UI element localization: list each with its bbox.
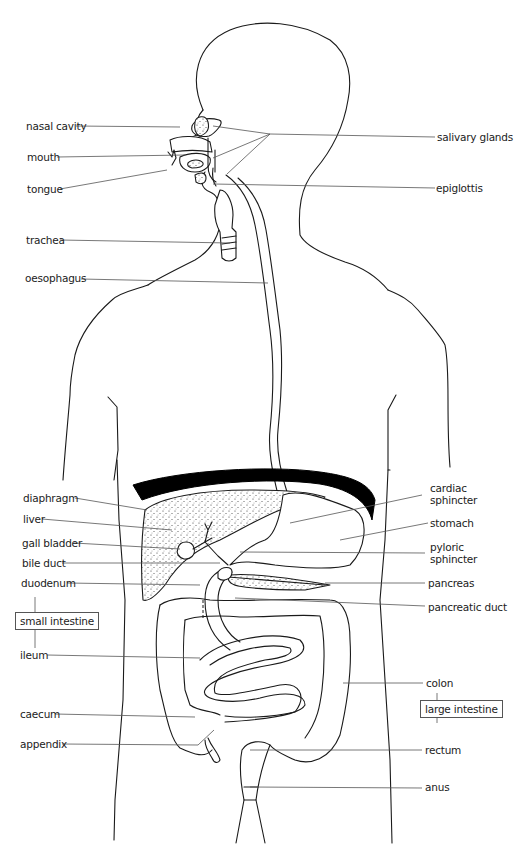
group-box-large-intestine: large intestine: [420, 700, 503, 718]
label-pancreatic-duct: pancreatic duct: [428, 601, 507, 613]
label-diaphragm: diaphragm: [23, 492, 78, 504]
label-rectum: rectum: [425, 744, 461, 756]
rectum-shape: [240, 742, 270, 800]
group-box-small-intestine: small intestine: [15, 612, 99, 630]
appendix-shape: [205, 738, 220, 762]
label-cardiac-sphincter-line2: sphincter: [430, 494, 477, 506]
label-tongue: tongue: [27, 183, 63, 195]
label-appendix: appendix: [20, 738, 67, 750]
label-bile-duct: bile duct: [22, 557, 66, 569]
pancreas-shape: [228, 575, 330, 590]
label-liver: liver: [23, 513, 45, 525]
label-oesophagus: oesophagus: [25, 272, 86, 284]
leader-lines-right: [213, 126, 437, 788]
label-cardiac-sphincter: cardiac: [430, 482, 467, 494]
label-trachea: trachea: [26, 234, 65, 246]
label-anus: anus: [425, 781, 449, 793]
label-salivary-glands: salivary glands: [437, 131, 513, 143]
label-pancreas: pancreas: [428, 577, 474, 589]
label-pyloric-sphincter: pyloric: [430, 541, 464, 553]
label-ileum: ileum: [20, 649, 48, 661]
duodenum-shape: [205, 570, 230, 650]
ileum-shape: [200, 636, 305, 722]
label-gall-bladder: gall bladder: [22, 537, 82, 549]
label-nasal-cavity: nasal cavity: [26, 120, 87, 132]
label-pyloric-sphincter-line2: sphincter: [430, 553, 477, 565]
label-mouth: mouth: [27, 151, 60, 163]
label-colon: colon: [426, 677, 453, 689]
label-stomach: stomach: [430, 517, 474, 529]
label-caecum: caecum: [20, 708, 60, 720]
label-duodenum: duodenum: [21, 577, 76, 589]
gall-bladder-shape: [177, 542, 194, 559]
label-epiglottis: epiglottis: [436, 182, 483, 194]
